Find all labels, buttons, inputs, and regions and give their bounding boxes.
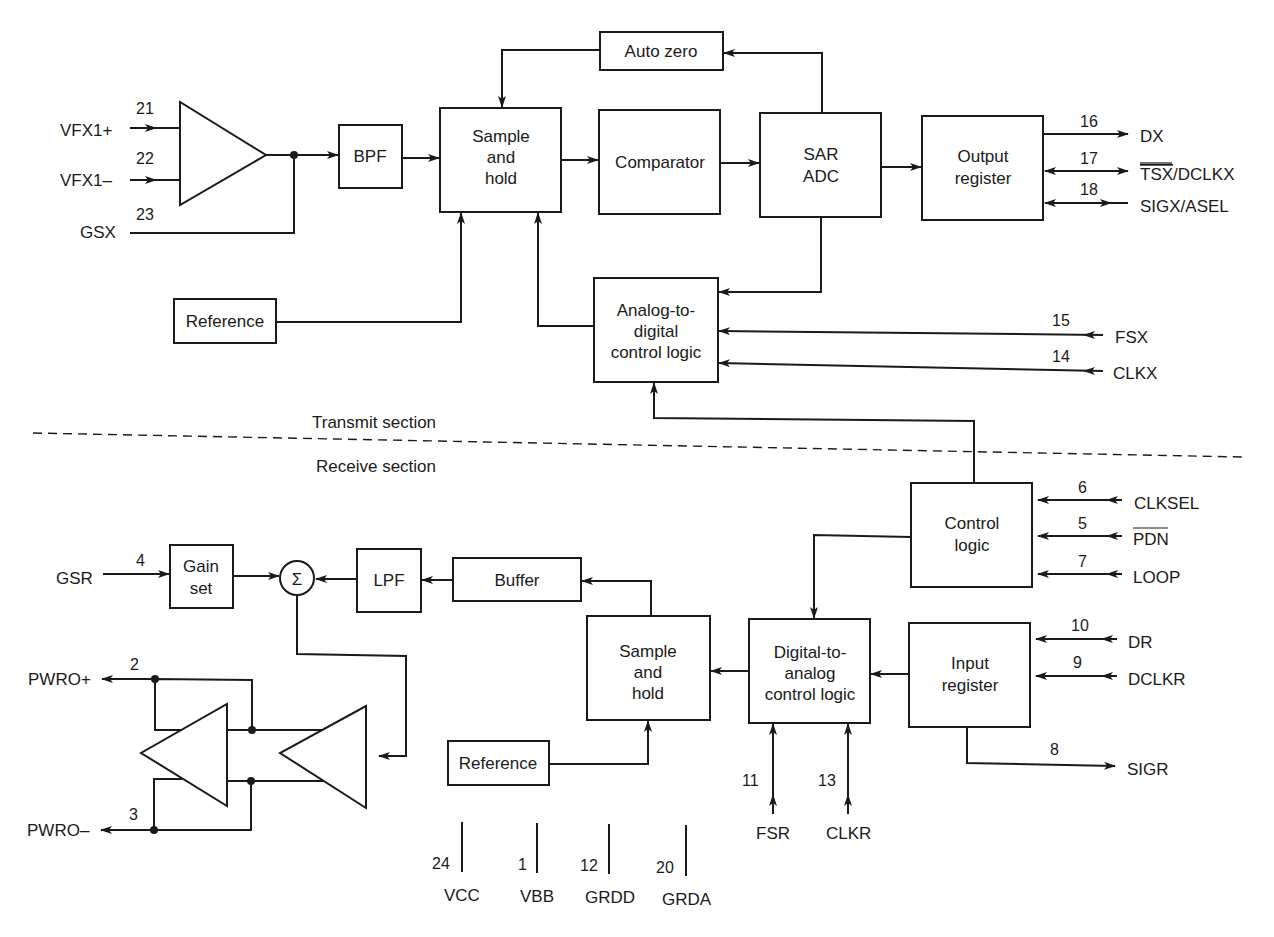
- pin-vbb: 1 VBB: [518, 823, 554, 906]
- svg-text:set: set: [190, 579, 213, 598]
- svg-text:SAR: SAR: [804, 145, 839, 164]
- output-register-block: Output register: [922, 116, 1043, 220]
- svg-text:register: register: [955, 169, 1012, 188]
- svg-text:BPF: BPF: [353, 147, 386, 166]
- svg-text:FSX: FSX: [1115, 328, 1148, 347]
- pin-pdn: 5 PDN: [1038, 515, 1169, 549]
- svg-text:DCLKR: DCLKR: [1128, 670, 1186, 689]
- pin-dclkr: 9 DCLKR: [1036, 654, 1186, 689]
- svg-text:18: 18: [1080, 181, 1098, 198]
- svg-text:Digital-to-: Digital-to-: [774, 643, 847, 662]
- svg-text:CLKR: CLKR: [826, 824, 871, 843]
- svg-text:and: and: [487, 148, 515, 167]
- svg-text:Output: Output: [957, 147, 1008, 166]
- buffer-block: Buffer: [453, 558, 581, 601]
- pin-gsr: GSR 4: [56, 552, 169, 588]
- svg-text:Buffer: Buffer: [494, 571, 539, 590]
- comparator-block: Comparator: [599, 110, 720, 214]
- svg-text:Comparator: Comparator: [615, 153, 705, 172]
- svg-text:20: 20: [656, 859, 674, 876]
- svg-text:15: 15: [1052, 312, 1070, 329]
- svg-text:8: 8: [1050, 741, 1059, 758]
- ad-control-logic-block: Analog-to- digital control logic: [594, 278, 718, 382]
- receive-section-label: Receive section: [316, 457, 436, 476]
- svg-text:PWRO–: PWRO–: [27, 821, 90, 840]
- gain-set-block: Gain set: [170, 545, 233, 608]
- svg-text:22: 22: [136, 150, 154, 167]
- svg-text:Auto zero: Auto zero: [625, 42, 698, 61]
- svg-text:24: 24: [432, 855, 450, 872]
- svg-text:Σ: Σ: [292, 570, 303, 589]
- svg-text:LOOP: LOOP: [1133, 568, 1180, 587]
- svg-text:6: 6: [1078, 479, 1087, 496]
- pin-loop: 7 LOOP: [1038, 553, 1180, 587]
- pin-pwro-plus: PWRO+ 2: [28, 656, 155, 689]
- svg-text:Control: Control: [945, 514, 1000, 533]
- tx-sample-hold-block: Sample and hold: [440, 108, 561, 212]
- svg-text:CLKX: CLKX: [1113, 364, 1157, 383]
- svg-text:Reference: Reference: [186, 312, 264, 331]
- svg-text:21: 21: [136, 100, 154, 117]
- svg-text:12: 12: [580, 857, 598, 874]
- input-amplifier: [180, 102, 266, 205]
- da-control-logic-block: Digital-to- analog control logic: [749, 619, 870, 723]
- svg-text:5: 5: [1078, 515, 1087, 532]
- svg-text:and: and: [634, 663, 662, 682]
- pin-fsr: 11 FSR: [742, 724, 790, 843]
- input-register-block: Input register: [909, 623, 1030, 727]
- svg-text:VFX1–: VFX1–: [60, 171, 113, 190]
- pin-clkx: 14 CLKX: [719, 348, 1157, 383]
- svg-text:PWRO+: PWRO+: [28, 670, 91, 689]
- svg-text:10: 10: [1071, 617, 1089, 634]
- svg-text:7: 7: [1078, 553, 1087, 570]
- svg-text:Input: Input: [951, 654, 989, 673]
- pin-tsx-dclkx: 17 TSX/DCLKX: [1045, 150, 1234, 184]
- pin-grdd: 12 GRDD: [580, 824, 635, 907]
- transmit-section-label: Transmit section: [312, 413, 436, 432]
- svg-text:hold: hold: [485, 169, 517, 188]
- power-pins: 24 VCC 1 VBB 12 GRDD 20 GRDA: [432, 822, 712, 909]
- auto-zero-block: Auto zero: [600, 32, 723, 70]
- svg-text:Sample: Sample: [472, 127, 530, 146]
- pin-clkselect: 6 CLKSEL: [1038, 479, 1199, 513]
- pin-vcc: 24 VCC: [432, 822, 480, 905]
- svg-text:analog: analog: [784, 664, 835, 683]
- svg-text:FSR: FSR: [756, 824, 790, 843]
- svg-text:16: 16: [1080, 113, 1098, 130]
- lpf-block: LPF: [357, 549, 421, 612]
- svg-text:PDN: PDN: [1133, 530, 1169, 549]
- power-amplifiers: [141, 595, 406, 834]
- tx-reference-block: Reference: [174, 299, 276, 343]
- svg-text:VCC: VCC: [444, 886, 480, 905]
- pin-vfx1-minus: VFX1– 22: [60, 150, 180, 190]
- pin-pwro-minus: PWRO– 3: [27, 806, 154, 840]
- rx-reference-block: Reference: [448, 741, 549, 785]
- svg-text:14: 14: [1052, 348, 1070, 365]
- svg-text:Gain: Gain: [183, 557, 219, 576]
- svg-text:13: 13: [818, 772, 836, 789]
- svg-text:GRDA: GRDA: [662, 890, 712, 909]
- pin-dr: 10 DR: [1036, 617, 1153, 652]
- svg-text:control logic: control logic: [765, 685, 856, 704]
- svg-text:GRDD: GRDD: [585, 888, 635, 907]
- svg-text:1: 1: [518, 856, 527, 873]
- svg-text:DX: DX: [1140, 127, 1164, 146]
- svg-text:LPF: LPF: [373, 571, 404, 590]
- svg-text:VFX1+: VFX1+: [60, 121, 113, 140]
- svg-text:logic: logic: [955, 536, 990, 555]
- svg-text:SIGR: SIGR: [1127, 760, 1169, 779]
- transmit-section: VFX1+ 21 VFX1– 22 GSX 23 BPF Sam: [60, 32, 1234, 483]
- pin-grda: 20 GRDA: [656, 825, 712, 909]
- pin-fsx: 15 FSX: [719, 312, 1148, 347]
- svg-text:Analog-to-: Analog-to-: [617, 301, 695, 320]
- codec-block-diagram: VFX1+ 21 VFX1– 22 GSX 23 BPF Sam: [0, 0, 1274, 937]
- section-divider: Transmit section Receive section: [33, 413, 1242, 476]
- control-logic-block: Control logic: [911, 483, 1032, 587]
- svg-text:23: 23: [136, 206, 154, 223]
- svg-text:GSX: GSX: [80, 223, 116, 242]
- summer-junction: Σ: [280, 561, 314, 595]
- bpf-block: BPF: [339, 125, 402, 188]
- svg-text:9: 9: [1073, 654, 1082, 671]
- svg-text:register: register: [942, 676, 999, 695]
- svg-text:2: 2: [130, 656, 139, 673]
